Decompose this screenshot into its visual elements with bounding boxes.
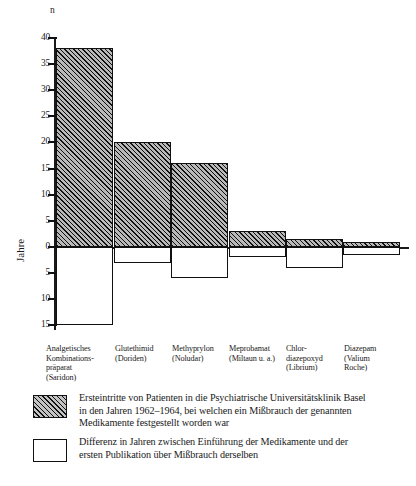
bar-negative	[114, 247, 171, 263]
x-axis-category-label-line: (Saridon)	[46, 373, 94, 383]
x-axis-category-label-line: (Librium)	[286, 363, 323, 373]
y-axis-tick: 5	[0, 268, 62, 278]
y-axis-tick-label: 25	[28, 111, 50, 121]
legend-item-text-line: ersten Publikation über Mißbrauch dersel…	[79, 449, 399, 462]
y-axis-tick: 40	[0, 33, 62, 43]
bar-positive	[114, 142, 171, 247]
y-axis-tick: 30	[0, 85, 62, 95]
bar-positive	[171, 163, 228, 247]
y-axis-tick: 15	[0, 164, 62, 174]
y-axis-tick-label: 15	[28, 320, 50, 330]
bar-positive	[229, 231, 286, 247]
bar-negative	[229, 247, 286, 257]
y-axis-tick-label: 0	[28, 242, 50, 252]
x-axis-category-label-line: Glutethimid	[115, 344, 153, 354]
x-axis-category-label-line: (Noludar)	[172, 354, 214, 364]
x-axis-category-label-line: (Doriden)	[115, 354, 153, 364]
legend-item-text-line: Ersteintritte von Patienten in die Psych…	[79, 392, 399, 405]
x-axis-category-label-line: Meprobamat	[229, 344, 275, 354]
x-axis-category-label: Meprobamat(Miltaun u. a.)	[229, 344, 275, 363]
legend-item-text: Ersteintritte von Patienten in die Psych…	[79, 392, 399, 430]
legend-swatch-outline-icon	[33, 439, 67, 462]
x-axis-category-label-line: Kombinations-	[46, 354, 94, 364]
legend-item-text-line: Differenz in Jahren zwischen Einführung …	[79, 436, 399, 449]
x-axis-category-label-line: präparat	[46, 363, 94, 373]
x-axis-category-label: Chlor-diazepoxyd(Librium)	[286, 344, 323, 373]
legend-item-text: Differenz in Jahren zwischen Einführung …	[79, 436, 399, 461]
legend-swatch-hatched-icon	[33, 395, 67, 418]
x-axis-category-labels: AnalgetischesKombinations-präparat(Sarid…	[0, 344, 416, 392]
y-axis-tick: 0	[0, 242, 62, 252]
y-axis-tick: 20	[0, 137, 62, 147]
legend-item-text-line: in den Jahren 1962–1964, bei welchen ein…	[79, 405, 399, 418]
x-axis-category-label-line: Roche)	[344, 363, 376, 373]
x-axis-category-label-line: Diazepam	[344, 344, 376, 354]
x-axis-category-label: Glutethimid(Doriden)	[115, 344, 153, 363]
y-axis-tick: 25	[0, 111, 62, 121]
x-axis-category-label: Diazepam(ValiumRoche)	[344, 344, 376, 373]
y-axis-tick-label: 35	[28, 59, 50, 69]
bar-negative	[171, 247, 228, 278]
legend-item: Ersteintritte von Patienten in die Psych…	[0, 392, 416, 426]
y-axis-tick-label: 15	[28, 164, 50, 174]
x-axis-category-label-line: Methyprylon	[172, 344, 214, 354]
x-axis-category-label-line: (Miltaun u. a.)	[229, 354, 275, 364]
y-axis-tick-label: 20	[28, 137, 50, 147]
bar-negative	[286, 247, 343, 268]
y-axis-unit-label-top: n	[50, 5, 55, 15]
x-axis-category-label-line: (Valium	[344, 354, 376, 364]
chart-legend: Ersteintritte von Patienten in die Psych…	[0, 392, 416, 480]
bar-negative	[56, 247, 113, 325]
y-axis-tick-label: 30	[28, 85, 50, 95]
y-axis-tick-label: 10	[28, 190, 50, 200]
bar-chart-plot-area: n Jahre 051015202530354051015	[0, 0, 416, 340]
legend-item: Differenz in Jahren zwischen Einführung …	[0, 436, 416, 470]
x-axis-category-label-line: Chlor-	[286, 344, 323, 354]
y-axis-tick-label: 5	[28, 216, 50, 226]
y-axis-tick: 10	[0, 294, 62, 304]
bar-positive	[286, 239, 343, 247]
legend-item-text-line: Medikamente festgestellt worden war	[79, 417, 399, 430]
bar-negative	[343, 247, 400, 255]
x-axis-category-label: Methyprylon(Noludar)	[172, 344, 214, 363]
y-axis-tick-mark	[48, 37, 57, 39]
y-axis-tick: 35	[0, 59, 62, 69]
y-axis-tick: 10	[0, 190, 62, 200]
x-axis-category-label-line: Analgetisches	[46, 344, 94, 354]
y-axis-tick: 15	[0, 320, 62, 330]
y-axis-tick-label: 5	[28, 268, 50, 278]
x-axis-category-label: AnalgetischesKombinations-präparat(Sarid…	[46, 344, 94, 382]
y-axis-tick-label: 10	[28, 294, 50, 304]
y-axis-tick: 5	[0, 216, 62, 226]
x-axis-category-label-line: diazepoxyd	[286, 354, 323, 364]
bar-positive	[56, 48, 113, 247]
y-axis-tick-label: 40	[28, 33, 50, 43]
